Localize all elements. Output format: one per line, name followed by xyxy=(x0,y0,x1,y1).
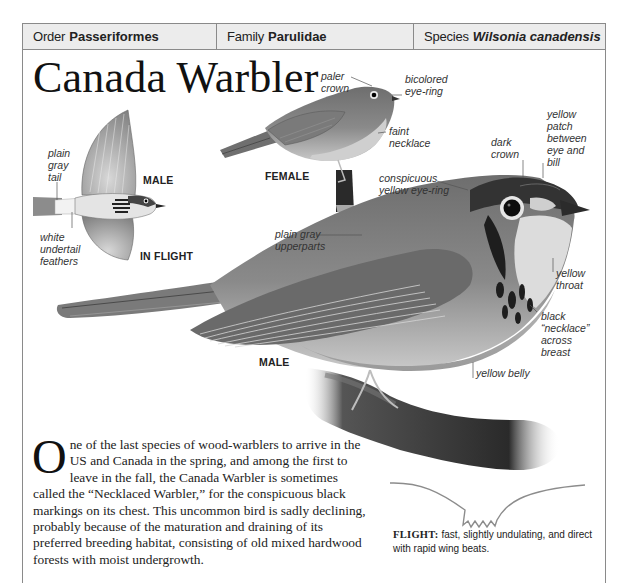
flight-heading: FLIGHT: xyxy=(393,529,439,540)
flight-caption: FLIGHT: fast, slightly undulating, and d… xyxy=(393,528,603,556)
order-value: Passeriformes xyxy=(69,29,159,44)
taxonomy-order: Order Passeriformes xyxy=(23,24,216,49)
order-label: Order xyxy=(33,29,65,44)
page-title: Canada Warbler xyxy=(33,52,319,104)
species-description: One of the last species of wood-warblers… xyxy=(33,437,371,568)
family-value: Parulidae xyxy=(268,29,327,44)
label-yellow-patch: yellow patch between eye and bill xyxy=(547,108,587,168)
species-label: Species xyxy=(424,29,469,44)
drop-cap: O xyxy=(32,439,67,475)
taxonomy-family: Family Parulidae xyxy=(216,24,413,49)
taxonomy-bar: Order Passeriformes Family Parulidae Spe… xyxy=(22,23,606,50)
caption-female: FEMALE xyxy=(265,170,309,182)
label-black-necklace: black “necklace” across breast xyxy=(541,310,589,358)
label-paler-crown: paler crown xyxy=(321,70,349,94)
label-plain-gray-upperparts: plain gray upperparts xyxy=(275,228,325,252)
taxonomy-species: Species Wilsonia canadensis xyxy=(413,24,605,49)
description-text: ne of the last species of wood-warblers … xyxy=(33,437,366,567)
label-white-undertail-feathers: white undertail feathers xyxy=(40,231,80,267)
caption-male: MALE xyxy=(259,356,290,368)
family-label: Family xyxy=(227,29,264,44)
label-dark-crown: dark crown xyxy=(491,136,519,160)
label-conspicuous-yellow-eye-ring: conspicuous yellow eye-ring xyxy=(379,172,449,196)
species-value: Wilsonia canadensis xyxy=(473,29,601,44)
label-yellow-throat: yellow throat xyxy=(556,267,585,291)
label-plain-gray-tail: plain gray tail xyxy=(48,147,70,183)
caption-male-in-flight: MALE xyxy=(143,174,174,186)
label-faint-necklace: faint necklace xyxy=(389,125,430,149)
label-yellow-belly: yellow belly xyxy=(476,367,530,379)
caption-in-flight: IN FLIGHT xyxy=(140,250,193,262)
label-bicolored-eye-ring: bicolored eye-ring xyxy=(405,73,448,97)
